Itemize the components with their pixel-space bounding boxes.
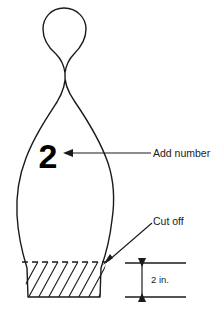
pin-number-label: 2: [39, 137, 58, 175]
bowling-pin-diagram: 2 Add number Cut off 2 in.: [0, 0, 220, 317]
dimension-value-label: 2 in.: [151, 274, 169, 285]
cut-off-label: Cut off: [153, 215, 184, 227]
pin-diagram-canvas: 2 Add number Cut off 2 in.: [0, 0, 220, 317]
add-number-label: Add number: [153, 147, 211, 159]
